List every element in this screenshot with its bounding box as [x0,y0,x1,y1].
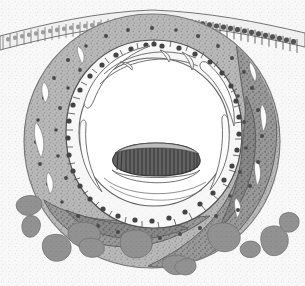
histology-canvas [0,0,305,286]
image-wash [0,0,305,286]
histology-figure: Histological cross-section of developing… [0,0,305,286]
